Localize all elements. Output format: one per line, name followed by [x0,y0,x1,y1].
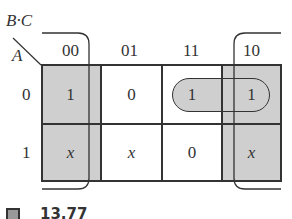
cell-r0c3: 1 [222,65,281,124]
cell-r1c3: x [222,124,281,181]
cell-r1c2: 0 [162,124,222,181]
cell-r1c1: x [101,124,162,181]
figure-caption: 13.77 [40,205,87,219]
figure-icon [6,208,20,219]
cell-r0c1: 0 [101,65,162,124]
cell-r0c0: 1 [41,65,100,124]
cell-r0c2: 1 [162,65,222,124]
cell-r1c0: x [41,124,100,181]
